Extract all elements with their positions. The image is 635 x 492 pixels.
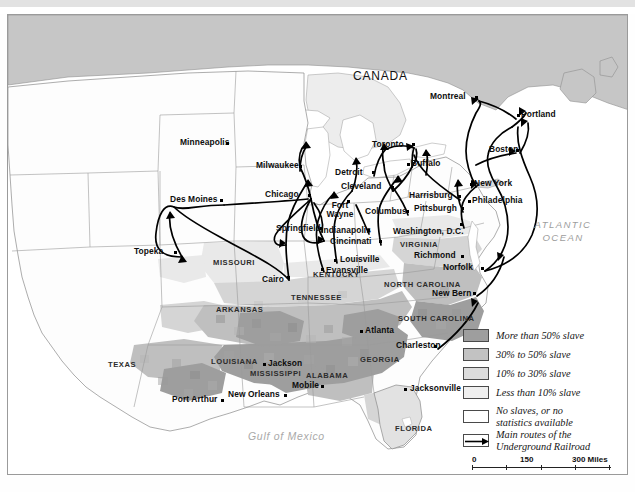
city-dot-atlanta xyxy=(360,330,363,333)
label-atlantic-ocean: ATLANTIC OCEAN xyxy=(523,220,603,243)
city-label-chicago: Chicago xyxy=(265,190,299,199)
scale-tick-3 xyxy=(575,465,576,470)
legend-item-30-50: 30% to 50% slave xyxy=(463,348,571,361)
state-label-georgia: GEORGIA xyxy=(360,356,400,364)
scale-miles-300: 300 Miles xyxy=(572,455,608,464)
state-label-virginia: VIRGINIA xyxy=(400,241,438,249)
city-label-milwaukee: Milwaukee xyxy=(256,161,299,170)
city-label-harrisburg: Harrisburg xyxy=(409,191,453,200)
state-label-alabama: ALABAMA xyxy=(306,372,348,380)
legend-item-under10: Less than 10% slave xyxy=(463,386,580,399)
state-label-tennessee: TENNESSEE xyxy=(291,294,342,302)
map-canvas: CANADA ATLANTIC OCEAN Gulf of Mexico MIS… xyxy=(8,15,627,474)
scale-km-0: 0 xyxy=(472,472,476,475)
city-label-portland: Portland xyxy=(521,110,556,119)
city-label-fort-wayne: Fort Wayne xyxy=(324,201,356,219)
city-label-des-moines: Des Moines xyxy=(170,195,218,204)
city-dot-cleveland xyxy=(391,186,394,189)
city-label-buffalo: Buffalo xyxy=(411,159,441,168)
city-dot-new-orleans xyxy=(284,394,287,397)
fort-wayne-line2: Wayne xyxy=(324,210,356,219)
city-dot-philadelphia xyxy=(468,200,471,203)
scale-km-unit: Kilometers xyxy=(577,472,618,475)
label-canada: CANADA xyxy=(353,70,408,83)
city-dot-toronto xyxy=(412,143,415,146)
no-slaves-line2: statistics available xyxy=(496,417,573,429)
routes-line2: Underground Railroad xyxy=(496,441,590,453)
legend-swatch-30-50 xyxy=(463,348,489,361)
scale-km-300: 300 xyxy=(544,472,557,475)
city-dot-new-bern xyxy=(473,292,476,295)
legend-label-10-30: 10% to 30% slave xyxy=(496,368,571,380)
city-dot-buffalo xyxy=(407,163,410,166)
state-label-missouri: MISSOURI xyxy=(213,259,255,267)
city-label-montreal: Montreal xyxy=(430,92,466,101)
scale-tick-4 xyxy=(609,465,610,470)
city-label-minneapolis: Minneapolis xyxy=(180,138,230,147)
city-label-new-orleans: New Orleans xyxy=(228,390,280,399)
state-label-arkansas: ARKANSAS xyxy=(216,306,263,314)
top-white-strip xyxy=(0,7,635,14)
map-legend: More than 50% slave 30% to 50% slave 10%… xyxy=(463,329,623,447)
city-label-new-york: New York xyxy=(474,179,512,188)
city-dot-evansville xyxy=(321,268,324,271)
map-frame: CANADA ATLANTIC OCEAN Gulf of Mexico MIS… xyxy=(7,14,628,475)
city-dot-des-moines xyxy=(220,199,223,202)
city-label-toronto: Toronto xyxy=(372,140,404,149)
legend-swatch-over50 xyxy=(463,329,489,342)
scale-tick-1 xyxy=(506,465,507,470)
legend-item-10-30: 10% to 30% slave xyxy=(463,367,571,380)
city-dot-richmond xyxy=(461,255,464,258)
city-dot-portland xyxy=(517,114,520,117)
city-dot-charleston xyxy=(434,345,437,348)
city-dot-cairo xyxy=(287,276,290,279)
city-label-cincinnati: Cincinnati xyxy=(330,237,371,246)
city-dot-harrisburg xyxy=(458,195,461,198)
legend-label-30-50: 30% to 50% slave xyxy=(496,349,571,361)
city-label-philadelphia: Philadelphia xyxy=(472,196,523,205)
city-label-springfield: Springfield xyxy=(276,224,321,233)
city-dot-new-york xyxy=(470,183,473,186)
city-label-jacksonville: Jacksonville xyxy=(410,384,461,393)
scale-bar-graphic xyxy=(472,465,611,470)
legend-swatch-route-arrow xyxy=(463,434,489,447)
city-dot-port-arthur xyxy=(221,399,224,402)
city-dot-montreal xyxy=(475,96,478,99)
legend-label-no-slaves: No slaves, or no statistics available xyxy=(496,405,573,428)
arrow-icon xyxy=(465,438,489,445)
city-dot-mobile xyxy=(321,385,324,388)
legend-swatch-10-30 xyxy=(463,367,489,380)
city-dot-cincinnati xyxy=(379,240,382,243)
label-gulf-of-mexico: Gulf of Mexico xyxy=(248,431,325,442)
state-label-south-carolina: SOUTH CAROLINA xyxy=(398,314,454,323)
city-dot-norfolk xyxy=(481,267,484,270)
scale-tick-0 xyxy=(472,465,473,470)
city-dot-louisville xyxy=(334,259,337,262)
city-label-new-bern: New Bern xyxy=(432,289,471,298)
city-dot-boston xyxy=(516,149,519,152)
city-label-topeka: Topeka xyxy=(134,247,163,256)
state-label-mississippi: MISSISSIPPI xyxy=(250,370,301,378)
scale-tick-2 xyxy=(541,465,542,470)
top-banner-strip xyxy=(0,0,635,7)
atlantic-line1: ATLANTIC xyxy=(523,220,603,230)
scale-miles-150: 150 xyxy=(520,455,533,464)
scale-miles-0: 0 xyxy=(472,455,476,464)
legend-swatch-under10 xyxy=(463,386,489,399)
city-dot-topeka xyxy=(174,251,177,254)
routes-line1: Main routes of the xyxy=(496,429,590,441)
city-dot-milwaukee xyxy=(299,165,302,168)
city-label-louisville: Louisville xyxy=(340,255,380,264)
city-label-cleveland: Cleveland xyxy=(341,182,381,191)
legend-item-no-slaves: No slaves, or no statistics available xyxy=(463,405,573,428)
city-dot-indianapolis xyxy=(367,229,370,232)
city-dot-washington-dc xyxy=(460,223,463,226)
city-label-columbus: Columbus xyxy=(365,207,407,216)
city-label-pittsburgh: Pittsburgh xyxy=(414,204,457,213)
city-dot-jacksonville xyxy=(404,388,407,391)
legend-label-routes: Main routes of the Underground Railroad xyxy=(496,429,590,452)
city-label-norfolk: Norfolk xyxy=(443,263,473,272)
legend-label-under10: Less than 10% slave xyxy=(496,387,580,399)
city-label-mobile: Mobile xyxy=(292,381,319,390)
city-label-washington-dc: Washington, D.C. xyxy=(393,227,464,236)
